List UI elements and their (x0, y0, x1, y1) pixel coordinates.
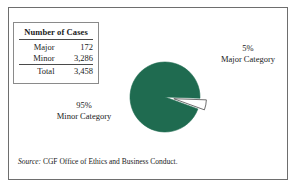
pie-slice-minor-category (130, 62, 200, 132)
source-prefix: Source: (18, 157, 41, 166)
label-minor-category: 95% Minor Category (38, 100, 130, 122)
label-major-name: Major Category (207, 54, 289, 65)
source-text: CGF Office of Ethics and Business Conduc… (43, 157, 178, 166)
table-body: Major 172 Minor 3,286 Total 3,458 (19, 41, 93, 78)
row-value-total: 3,458 (55, 65, 93, 78)
figure-container: Number of Cases Major 172 Minor 3,286 To… (0, 0, 301, 195)
table-row: Major 172 (19, 41, 93, 53)
row-label-major: Major (19, 41, 55, 53)
label-major-category: 5% Major Category (207, 43, 289, 65)
source-note: Source: CGF Office of Ethics and Busines… (18, 157, 178, 167)
label-minor-name: Minor Category (38, 111, 130, 122)
table-title: Number of Cases (19, 27, 93, 40)
row-value-minor: 3,286 (55, 53, 93, 65)
row-value-major: 172 (55, 41, 93, 53)
table-row: Minor 3,286 (19, 53, 93, 65)
number-of-cases-table: Number of Cases Major 172 Minor 3,286 To… (13, 22, 99, 84)
label-major-percent: 5% (207, 43, 289, 54)
pie-chart-svg (118, 48, 218, 148)
row-label-minor: Minor (19, 53, 55, 65)
label-minor-percent: 95% (38, 100, 130, 111)
row-label-total: Total (19, 65, 55, 78)
pie-chart (118, 48, 218, 148)
table-row-total: Total 3,458 (19, 65, 93, 78)
